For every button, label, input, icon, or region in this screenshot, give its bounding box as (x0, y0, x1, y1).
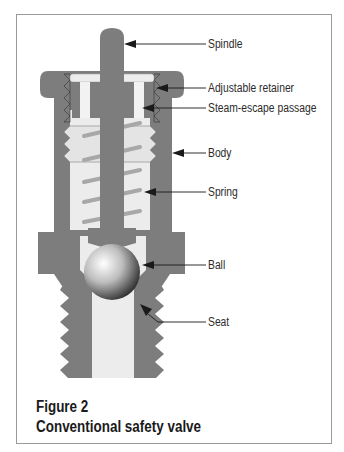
label-spring: Spring (208, 185, 238, 199)
label-spindle: Spindle (208, 37, 242, 51)
label-adjustable-retainer: Adjustable retainer (208, 81, 294, 95)
label-steam-escape-passage: Steam-escape passage (208, 101, 316, 115)
label-seat: Seat (208, 315, 229, 329)
figure-title: Conventional safety valve (36, 418, 201, 436)
figure-number: Figure 2 (36, 398, 88, 416)
label-body: Body (208, 146, 232, 160)
label-ball: Ball (208, 258, 225, 272)
ball (84, 244, 140, 300)
safety-valve-diagram (0, 0, 344, 452)
